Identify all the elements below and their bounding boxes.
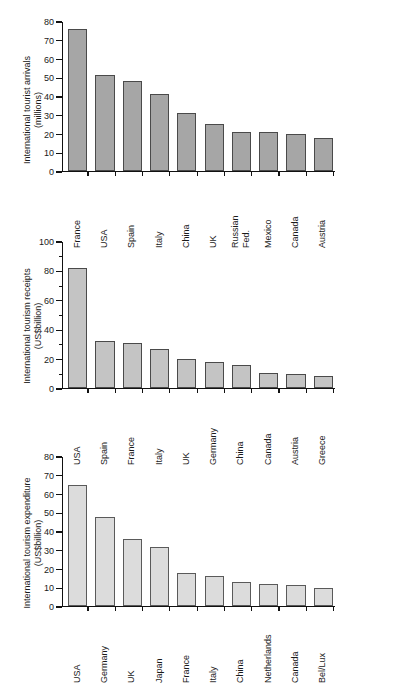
x-axis-tick (169, 389, 170, 393)
x-axis-tick (115, 389, 116, 393)
y-axis-tick (56, 456, 62, 457)
x-axis-tick (115, 607, 116, 611)
y-axis-title-text: International tourism receipts (US$billi… (22, 242, 44, 410)
bar (123, 81, 142, 171)
y-axis-tick-label: 60 (44, 296, 54, 305)
y-axis-line (62, 242, 63, 389)
y-axis-tick-label: 0 (49, 603, 54, 612)
bar (150, 94, 169, 171)
bar (95, 341, 114, 388)
y-axis-tick (56, 115, 62, 116)
y-axis-tick-label: 80 (44, 18, 54, 27)
bar (232, 132, 251, 171)
bar (68, 29, 87, 172)
y-axis-minor-tick (59, 344, 63, 345)
y-axis-tick-label: 70 (44, 36, 54, 45)
x-axis-tick (169, 607, 170, 611)
x-axis-tick (87, 172, 88, 176)
bar (232, 582, 251, 606)
chart-panel-arrivals: International tourist arrivals (millions… (0, 0, 395, 230)
chart-panel-receipts: International tourism receipts (US$billi… (0, 228, 395, 440)
y-axis-minor-tick (59, 315, 63, 316)
x-axis-category-label: Italy (208, 613, 219, 683)
y-axis-tick (56, 569, 62, 570)
bar (150, 349, 169, 388)
x-axis-tick (306, 607, 307, 611)
x-axis-tick (333, 389, 334, 393)
y-axis-tick-label: 40 (44, 528, 54, 537)
bar (314, 588, 333, 606)
x-axis-tick (306, 389, 307, 393)
y-axis-tick (56, 78, 62, 79)
y-axis-minor-tick (59, 374, 63, 375)
x-axis-tick (87, 389, 88, 393)
plot-area: 01020304050607080FranceUSASpainItalyChin… (62, 22, 335, 172)
y-axis-line (62, 22, 63, 172)
y-axis-tick-label: 40 (44, 326, 54, 335)
y-axis-tick (56, 171, 62, 172)
bar (68, 268, 87, 388)
y-axis-tick-label: 100 (39, 238, 54, 247)
x-axis-category-label: Netherlands (263, 613, 274, 683)
x-axis-tick (87, 607, 88, 611)
x-axis-tick (333, 172, 334, 176)
bar (314, 138, 333, 171)
bar (123, 343, 142, 388)
y-axis-tick-label: 20 (44, 355, 54, 364)
bar (205, 362, 224, 388)
x-axis-category-label: France (181, 613, 192, 683)
y-axis-tick (56, 21, 62, 22)
chart-panel-expenditure: International tourism expenditure (US$bi… (0, 443, 395, 678)
x-axis-tick (333, 607, 334, 611)
y-axis-tick-label: 30 (44, 546, 54, 555)
bar (205, 576, 224, 606)
bar (95, 517, 114, 606)
x-axis-tick (278, 172, 279, 176)
y-axis-minor-tick (59, 286, 63, 287)
y-axis-tick (56, 388, 62, 389)
y-axis-tick (56, 531, 62, 532)
y-axis-tick-label: 0 (49, 385, 54, 394)
x-axis-tick (251, 389, 252, 393)
y-axis-tick (56, 513, 62, 514)
bar (286, 374, 305, 388)
x-axis-category-label: Canada (290, 613, 301, 683)
y-axis-tick (56, 359, 62, 360)
bar (95, 75, 114, 171)
y-axis-tick-label: 80 (44, 267, 54, 276)
x-axis-tick (169, 172, 170, 176)
bar (286, 134, 305, 171)
x-axis-category-label: Germany (99, 613, 110, 683)
bar (286, 585, 305, 606)
y-axis-tick-label: 10 (44, 584, 54, 593)
y-axis-tick-label: 60 (44, 55, 54, 64)
bar (150, 547, 169, 606)
y-axis-tick-label: 20 (44, 130, 54, 139)
y-axis-tick (56, 271, 62, 272)
x-axis-tick (278, 389, 279, 393)
plot-area: 020406080100USASpainFranceItalyUKGermany… (62, 242, 335, 389)
bar (232, 365, 251, 388)
x-axis-tick (115, 172, 116, 176)
x-axis-tick (142, 607, 143, 611)
y-axis-tick-label: 50 (44, 74, 54, 83)
x-axis-tick (251, 172, 252, 176)
y-axis-tick-label: 30 (44, 111, 54, 120)
x-axis-tick (224, 172, 225, 176)
y-axis-minor-tick (59, 256, 63, 257)
bar (259, 584, 278, 606)
bar (177, 359, 196, 388)
y-axis-tick (56, 134, 62, 135)
x-axis-tick (197, 389, 198, 393)
y-axis-tick-label: 60 (44, 490, 54, 499)
x-axis-category-label: China (235, 613, 246, 683)
y-axis-tick (56, 40, 62, 41)
y-axis-title-text: International tourism expenditure (US$bi… (22, 457, 44, 629)
x-axis-category-label: Japan (153, 613, 164, 683)
x-axis-tick (224, 607, 225, 611)
plot-area: 01020304050607080USAGermanyUKJapanFrance… (62, 457, 335, 607)
x-axis-tick (306, 172, 307, 176)
y-axis-tick (56, 550, 62, 551)
y-axis-tick-label: 50 (44, 509, 54, 518)
